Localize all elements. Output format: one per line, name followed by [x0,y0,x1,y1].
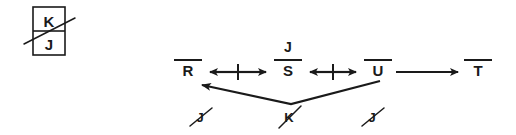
node-u-label: U [373,62,384,79]
diagram-svg: K J R J S U T S ====== --> [0,0,516,135]
node-t: T [464,60,492,79]
diagram-canvas: K J R J S U T S ====== --> [0,0,516,135]
connector-u-r-via-k [202,81,380,104]
node-s-label: S [283,62,293,79]
legend-box-bottom-label: J [45,36,53,53]
node-t-label: T [473,62,482,79]
legend-box: K J [24,7,75,55]
node-s: J S [274,39,302,79]
connector-u-r-via-k-path-icon [202,81,380,104]
connector-s-u [310,64,356,80]
legend-box-top-label: K [44,13,55,30]
bottom-mark-right: J [362,108,384,126]
connector-r-s [210,64,266,80]
node-u: U [364,60,392,79]
bottom-mark-left: J [190,108,212,126]
node-r: R [174,60,202,79]
node-r-label: R [183,62,194,79]
bottom-mark-center: K [279,106,301,128]
superscript-j-label: J [284,39,292,55]
